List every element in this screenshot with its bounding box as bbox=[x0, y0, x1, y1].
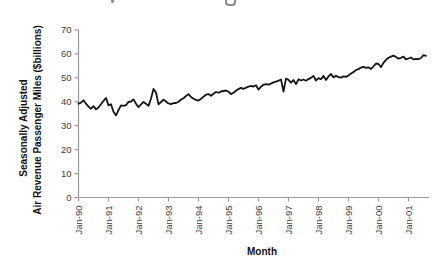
x-tick-label: Jan-94 bbox=[193, 206, 204, 235]
x-tick-label: Jan-00 bbox=[373, 206, 384, 235]
y-tick-label: 60 bbox=[61, 48, 72, 59]
y-axis-title-line1: Seasonally Adjusted bbox=[18, 79, 29, 176]
x-tick-label: Jan-95 bbox=[223, 206, 234, 235]
y-tick-label: 70 bbox=[61, 24, 72, 35]
y-tick-label: 50 bbox=[61, 72, 72, 83]
x-tick-label: Jan-92 bbox=[133, 206, 144, 235]
data-series-line bbox=[79, 55, 427, 115]
chart-svg: 706050403020100Jan-90Jan-91Jan-92Jan-93J… bbox=[0, 0, 444, 269]
y-axis-title-line2: Air Revenue Passenger Miles ($billions) bbox=[32, 25, 43, 215]
cropped-text-artifact bbox=[225, 0, 236, 6]
figure-canvas: 706050403020100Jan-90Jan-91Jan-92Jan-93J… bbox=[0, 0, 444, 269]
y-tick-label: 30 bbox=[61, 120, 72, 131]
y-tick-label: 10 bbox=[61, 168, 72, 179]
y-tick-label: 0 bbox=[66, 192, 71, 203]
x-tick-label: Jan-98 bbox=[313, 206, 324, 235]
x-tick-label: Jan-97 bbox=[283, 206, 294, 235]
x-tick-label: Jan-99 bbox=[343, 206, 354, 235]
y-tick-label: 20 bbox=[61, 144, 72, 155]
x-tick-label: Jan-91 bbox=[103, 206, 114, 235]
x-tick-label: Jan-90 bbox=[73, 206, 84, 235]
cropped-text-artifact bbox=[111, 0, 114, 3]
y-tick-label: 40 bbox=[61, 96, 72, 107]
x-tick-label: Jan-96 bbox=[253, 206, 264, 235]
x-axis-title: Month bbox=[247, 246, 277, 257]
time-series-chart: 706050403020100Jan-90Jan-91Jan-92Jan-93J… bbox=[0, 0, 444, 269]
x-tick-label: Jan-93 bbox=[163, 206, 174, 235]
x-tick-label: Jan-01 bbox=[403, 206, 414, 235]
